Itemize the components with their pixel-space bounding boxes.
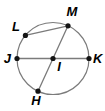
point-dot-J <box>14 56 19 61</box>
point-label-K: K <box>93 51 104 66</box>
point-label-I: I <box>57 59 61 74</box>
point-label-J: J <box>4 51 12 66</box>
point-label-M: M <box>67 4 79 19</box>
diagram-svg: LMJIKH <box>0 0 105 111</box>
point-label-L: L <box>12 19 20 34</box>
segment-chord-LM <box>25 26 68 36</box>
circle-diagram: LMJIKH <box>0 0 105 111</box>
point-dot-K <box>86 56 91 61</box>
point-label-H: H <box>31 93 41 108</box>
point-dot-M <box>65 23 70 28</box>
point-dot-I <box>50 56 55 61</box>
point-dot-L <box>23 33 28 38</box>
